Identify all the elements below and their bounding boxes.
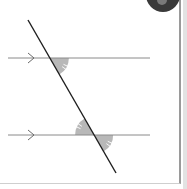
scrollbar-edge [183,0,187,189]
transversal-line [28,20,116,173]
parallel-lines-diagram [0,0,181,184]
lower-angle-below-right [94,135,113,151]
lower-angle-above-left [75,119,94,135]
diagram-frame [0,0,187,189]
upper-angle-below-right [50,58,69,74]
